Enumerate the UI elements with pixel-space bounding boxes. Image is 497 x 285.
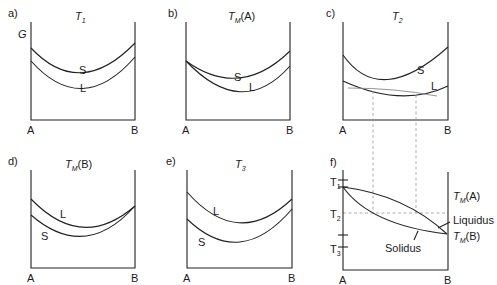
panel-d-curve-l (31, 199, 135, 227)
panel-d: d) TM(B) L S A B (8, 155, 138, 284)
panel-e-title: T3 (235, 158, 246, 172)
tick-label-t3: T3 (330, 243, 341, 257)
label-tm-a: TM(A) (453, 190, 480, 204)
panel-d-x-right: B (131, 272, 138, 284)
panel-a-x-left: A (27, 124, 35, 136)
panel-b-x-left: A (182, 124, 190, 136)
gibbs-free-energy-phase-diagram: a) T1 G S L A B b) TM(A) S L A B c) T2 S… (0, 0, 497, 285)
panel-a: a) T1 G S L A B (8, 7, 138, 136)
tick-label-t2: T2 (330, 208, 341, 222)
panel-e-curve-s-label: S (198, 236, 205, 248)
panel-e-axes (187, 170, 292, 268)
panel-a-curve-s-label: S (79, 64, 86, 76)
panel-f-x-right: B (444, 274, 451, 285)
panel-c-x-right: B (444, 124, 451, 136)
solidus-label: Solidus (385, 242, 422, 254)
panel-a-curve-l-label: L (80, 82, 86, 94)
y-axis-label-g: G (18, 28, 27, 40)
panel-a-title: T1 (75, 10, 86, 24)
liquidus-curve (343, 187, 447, 234)
panel-b-title: TM(A) (228, 10, 255, 24)
panel-c-curve-l-label: L (431, 80, 437, 92)
panel-c-label: c) (326, 7, 335, 19)
panel-d-x-left: A (27, 272, 35, 284)
panel-d-curve-l-label: L (60, 208, 66, 220)
panel-f: f) T1 T2 T3 TM(A) Liquidus TM(B) Solidus… (330, 156, 494, 285)
panel-a-x-right: B (131, 124, 138, 136)
label-tm-b: TM(B) (453, 230, 480, 244)
panel-f-label: f) (330, 156, 337, 168)
panel-e-label: e) (166, 155, 176, 167)
panel-c-x-left: A (339, 124, 347, 136)
projection-lines (343, 91, 448, 213)
panel-a-label: a) (8, 7, 18, 19)
solidus-curve (343, 187, 447, 234)
panel-c-title: T2 (392, 10, 403, 24)
panel-b-label: b) (168, 7, 178, 19)
panel-c-curve-s-label: S (417, 64, 424, 76)
panel-f-axes (343, 170, 448, 270)
panel-e-curve-l-label: L (213, 205, 219, 217)
liquidus-label: Liquidus (453, 214, 494, 226)
panel-d-curve-s-label: S (41, 230, 48, 242)
panel-f-x-left: A (339, 274, 347, 285)
panel-d-label: d) (8, 155, 18, 167)
panel-b-curve-l-label: L (249, 81, 255, 93)
panel-c: c) T2 S L A B (326, 7, 451, 136)
panel-b-curve-s-label: S (234, 71, 241, 83)
panel-e-x-right: B (288, 272, 295, 284)
panel-b-x-right: B (286, 124, 293, 136)
panel-c-curve-s (343, 47, 448, 80)
tick-label-t1: T1 (330, 176, 341, 190)
panel-e: e) T3 L S A B (166, 155, 295, 284)
panel-b: b) TM(A) S L A B (168, 7, 293, 136)
solidus-leader (414, 231, 418, 240)
panel-d-title: TM(B) (65, 158, 92, 172)
panel-d-axes (31, 170, 135, 268)
panel-e-curve-l (187, 192, 292, 223)
panel-e-x-left: A (183, 272, 191, 284)
